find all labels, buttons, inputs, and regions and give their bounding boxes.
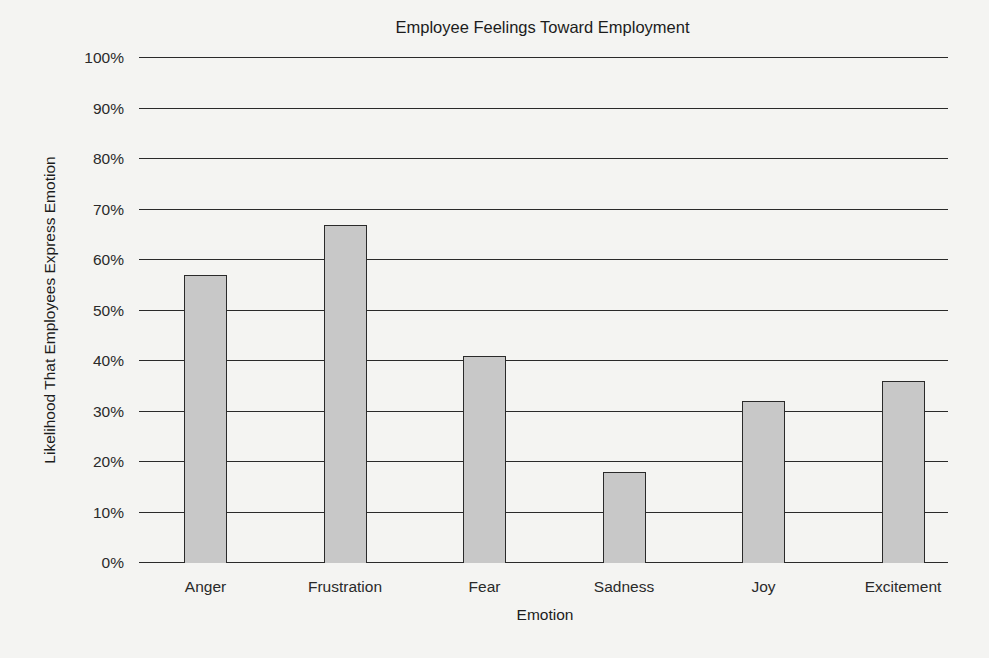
gridline <box>139 360 948 361</box>
x-tick-label: Frustration <box>308 578 382 596</box>
x-tick-label: Fear <box>469 578 501 596</box>
plot-area: 0%10%20%30%40%50%60%70%80%90%100%AngerFr… <box>0 0 989 658</box>
y-tick-label: 70% <box>0 201 124 219</box>
gridline <box>139 562 948 563</box>
x-tick-label: Anger <box>185 578 226 596</box>
y-tick-label: 80% <box>0 150 124 168</box>
gridline <box>139 57 948 58</box>
bar-anger <box>184 275 227 563</box>
gridline <box>139 108 948 109</box>
bar-excitement <box>882 381 925 563</box>
y-tick-label: 40% <box>0 352 124 370</box>
gridline <box>139 259 948 260</box>
gridline <box>139 461 948 462</box>
gridline <box>139 411 948 412</box>
bar-sadness <box>603 472 646 563</box>
y-tick-label: 20% <box>0 453 124 471</box>
y-tick-label: 90% <box>0 100 124 118</box>
y-tick-label: 10% <box>0 504 124 522</box>
gridline <box>139 158 948 159</box>
y-tick-label: 60% <box>0 251 124 269</box>
y-tick-label: 0% <box>0 554 124 572</box>
bar-fear <box>463 356 506 563</box>
bar-frustration <box>324 225 367 563</box>
bar-joy <box>742 401 785 563</box>
y-tick-label: 100% <box>0 49 124 67</box>
x-tick-label: Sadness <box>594 578 654 596</box>
x-tick-label: Joy <box>751 578 775 596</box>
y-tick-label: 50% <box>0 302 124 320</box>
gridline <box>139 310 948 311</box>
gridline <box>139 512 948 513</box>
gridline <box>139 209 948 210</box>
y-tick-label: 30% <box>0 403 124 421</box>
x-tick-label: Excitement <box>865 578 942 596</box>
